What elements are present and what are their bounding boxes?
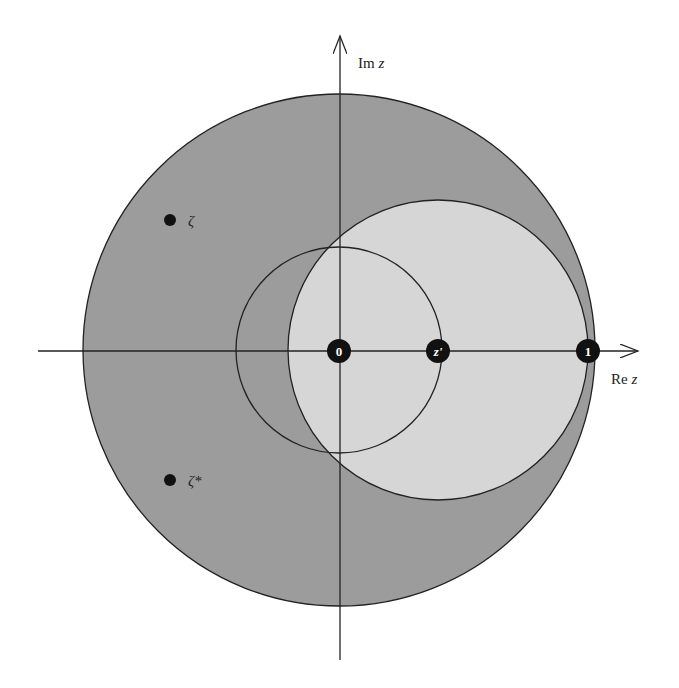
- point-zeta-conjugate-label: ζ*: [188, 473, 202, 489]
- point-z-prime-label: z': [433, 344, 443, 359]
- point-origin: 0: [327, 339, 351, 363]
- real-axis-label: Re z: [611, 371, 637, 387]
- point-one: 1: [576, 339, 600, 363]
- imaginary-axis-label: Im z: [358, 55, 384, 71]
- point-origin-label: 0: [336, 344, 343, 359]
- complex-plane-diagram: Im z Re z 0 z' 1 ζ ζ*: [0, 0, 679, 688]
- point-z-prime: z': [426, 339, 450, 363]
- point-one-label: 1: [585, 344, 592, 359]
- point-zeta-label: ζ: [188, 213, 195, 229]
